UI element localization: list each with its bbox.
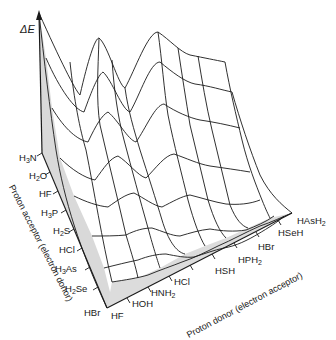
- donor-label-hoh: HOH: [132, 299, 153, 309]
- donor-label-hsh: HSH: [215, 266, 235, 276]
- donor-label-hseh: HSeH: [278, 228, 303, 238]
- surface-grid-acceptor-lines: [39, 13, 292, 282]
- acceptor-label-h3n: H3N: [19, 153, 37, 163]
- delta-e-label: ΔE: [20, 23, 35, 35]
- donor-label-hcl: HCl: [174, 277, 190, 287]
- acceptor-label-h3p: H3P: [41, 208, 58, 218]
- acceptor-label-hcl: HCl: [59, 245, 75, 255]
- donor-label-hph2: HPH2: [238, 255, 262, 265]
- donor-label-hnh2: HNH2: [151, 288, 176, 298]
- donor-label-hbr: HBr: [258, 242, 274, 252]
- acceptor-label-h2o: H2O: [29, 171, 47, 181]
- acceptor-label-h2s: H2S: [53, 226, 70, 236]
- acceptor-label-hbr: HBr: [84, 308, 100, 318]
- acceptor-label-hf: HF: [39, 189, 52, 199]
- donor-label-hash2: HAsH2: [297, 216, 326, 226]
- donor-label-hf: HF: [111, 311, 124, 321]
